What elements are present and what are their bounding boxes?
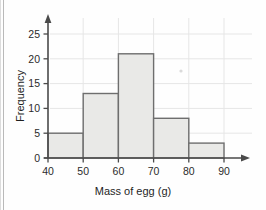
bar-80-90 xyxy=(189,143,224,158)
xtick-label-40: 40 xyxy=(42,165,54,177)
bar-40-50 xyxy=(48,133,83,158)
x-axis-tick-labels: 40 50 60 70 80 90 xyxy=(42,165,230,177)
ytick-label-25: 25 xyxy=(28,28,40,40)
bar-70-80 xyxy=(154,118,189,158)
xtick-label-80: 80 xyxy=(183,165,195,177)
x-axis-title: Mass of egg (g) xyxy=(95,185,171,197)
y-axis-title: Frequency xyxy=(14,70,26,122)
ytick-label-5: 5 xyxy=(34,127,40,139)
histogram-bars xyxy=(48,54,224,158)
xtick-label-60: 60 xyxy=(113,165,125,177)
bar-60-70 xyxy=(118,54,153,158)
ytick-label-20: 20 xyxy=(28,53,40,65)
x-axis-arrow-icon xyxy=(241,155,250,162)
scan-speck xyxy=(179,69,182,72)
bar-50-60 xyxy=(83,94,118,159)
ytick-label-10: 10 xyxy=(28,102,40,114)
y-axis-arrow-icon xyxy=(45,14,52,23)
histogram-svg: 0 5 10 15 20 25 40 50 60 70 80 90 Mass o… xyxy=(0,0,266,210)
xtick-label-90: 90 xyxy=(218,165,230,177)
ytick-label-15: 15 xyxy=(28,77,40,89)
ytick-label-0: 0 xyxy=(34,152,40,164)
histogram-figure: 0 5 10 15 20 25 40 50 60 70 80 90 Mass o… xyxy=(0,0,266,210)
xtick-label-50: 50 xyxy=(77,165,89,177)
xtick-label-70: 70 xyxy=(148,165,160,177)
page-background: 0 5 10 15 20 25 40 50 60 70 80 90 Mass o… xyxy=(0,0,266,210)
y-axis-tick-labels: 0 5 10 15 20 25 xyxy=(28,28,40,164)
